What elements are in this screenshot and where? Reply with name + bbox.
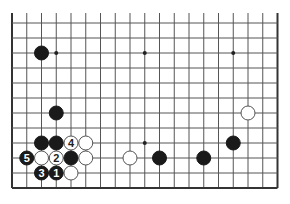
go-board-diagram: 45231	[0, 0, 290, 204]
star-point-icon	[231, 51, 235, 55]
move-number-label: 5	[24, 152, 30, 164]
black-stone	[226, 136, 240, 150]
black-stone-icon	[35, 46, 49, 60]
white-stone	[35, 151, 49, 165]
move-number-label: 3	[38, 167, 44, 179]
black-stone-icon	[49, 136, 63, 150]
star-point-icon	[54, 51, 58, 55]
black-stone	[35, 46, 49, 60]
black-stone-icon	[153, 151, 167, 165]
black-stone	[64, 151, 78, 165]
move-number-label: 1	[53, 167, 59, 179]
white-stone-icon	[79, 136, 93, 150]
white-stone	[241, 106, 255, 120]
white-stone-icon	[241, 106, 255, 120]
black-stone	[197, 151, 211, 165]
black-stone	[153, 151, 167, 165]
white-stone-icon	[64, 166, 78, 180]
star-point-icon	[143, 51, 147, 55]
black-stone-move-3: 3	[35, 166, 49, 180]
black-stone-icon	[35, 136, 49, 150]
white-stone	[64, 166, 78, 180]
white-stone-move-2: 2	[49, 151, 63, 165]
white-stone-icon	[79, 151, 93, 165]
black-stone-icon	[64, 151, 78, 165]
white-stone	[79, 136, 93, 150]
black-stone	[49, 136, 63, 150]
white-stone-icon	[123, 151, 137, 165]
black-stone	[49, 106, 63, 120]
move-number-label: 2	[53, 152, 59, 164]
black-stone	[35, 136, 49, 150]
white-stone-icon	[35, 151, 49, 165]
black-stone-icon	[197, 151, 211, 165]
white-stone	[123, 151, 137, 165]
black-stone-move-1: 1	[49, 166, 63, 180]
star-point-icon	[143, 141, 147, 145]
white-stone-move-4: 4	[64, 136, 78, 150]
white-stone	[79, 151, 93, 165]
black-stone-icon	[49, 106, 63, 120]
black-stone-move-5: 5	[20, 151, 34, 165]
black-stone-icon	[226, 136, 240, 150]
move-number-label: 4	[68, 137, 75, 149]
